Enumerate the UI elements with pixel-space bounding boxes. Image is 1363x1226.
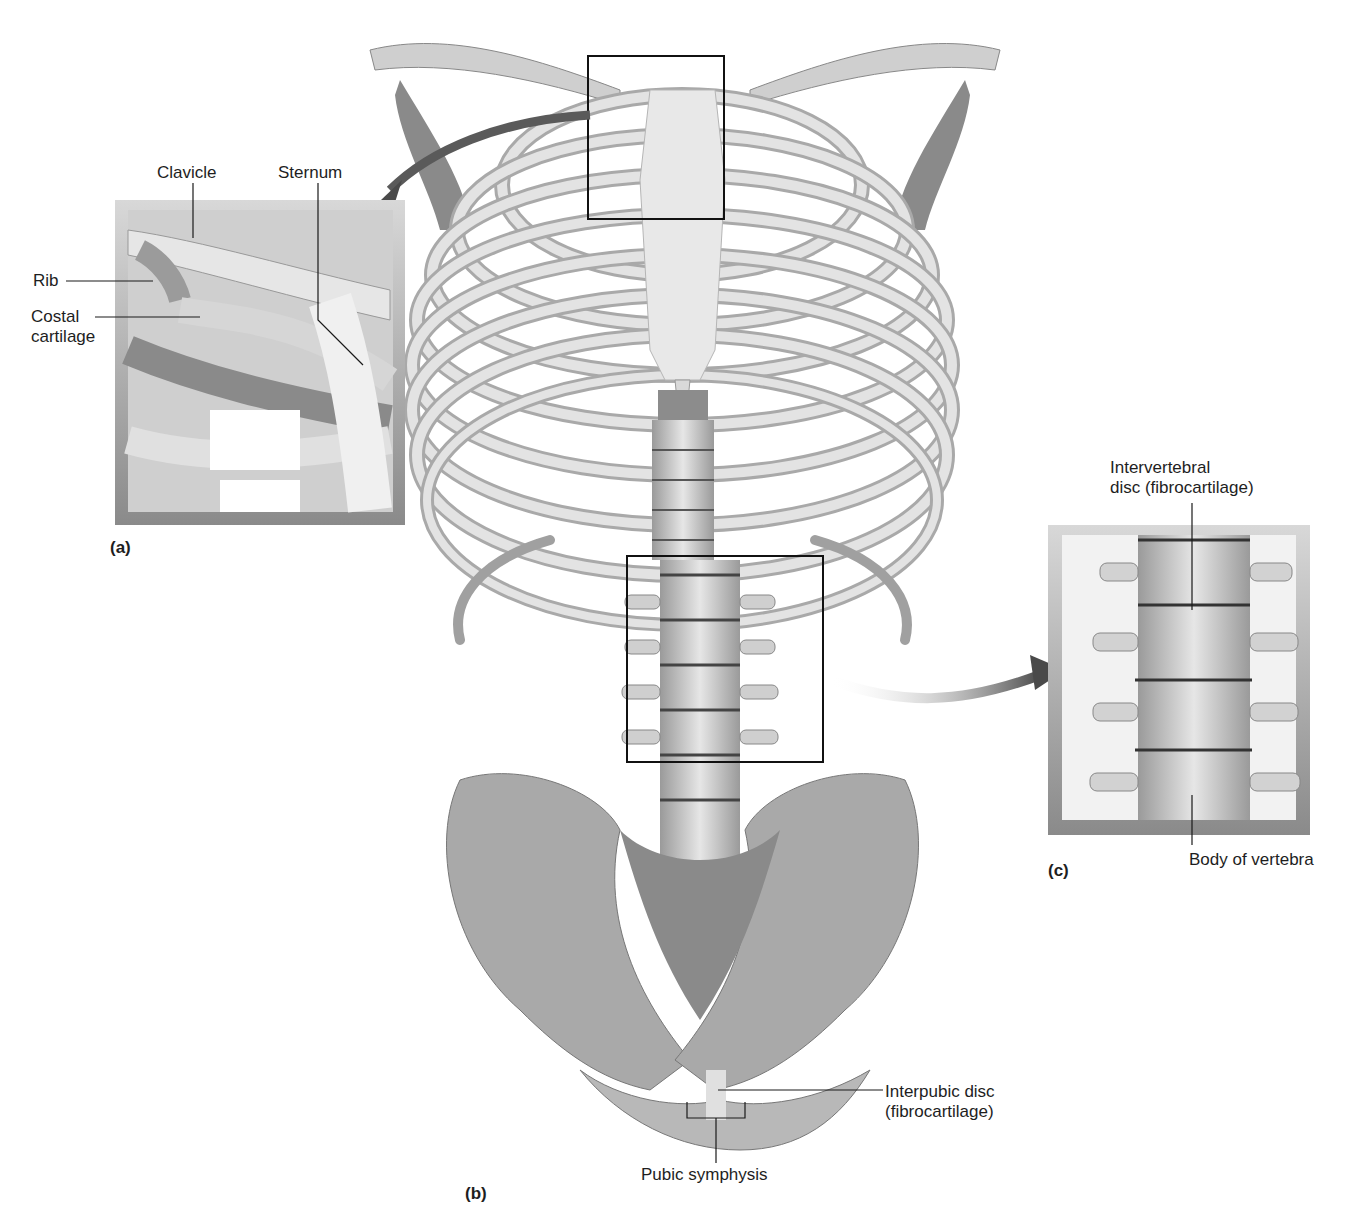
- panel-tag-a: (a): [110, 538, 131, 558]
- panel-tag-c: (c): [1048, 861, 1069, 881]
- panel-tag-b: (b): [465, 1184, 487, 1204]
- sternum: [640, 90, 725, 400]
- panel-a-inset: [115, 200, 405, 525]
- label-body-of-vertebra: Body of vertebra: [1189, 850, 1314, 870]
- label-clavicle: Clavicle: [157, 163, 217, 183]
- skeleton-illustration: [0, 0, 1363, 1226]
- label-pubic-symphysis: Pubic symphysis: [641, 1165, 768, 1185]
- label-interpubic-disc: Interpubic disc (fibrocartilage): [885, 1082, 995, 1122]
- label-costal-cartilage: Costal cartilage: [31, 307, 95, 347]
- arrow-to-panel-c: [830, 675, 1040, 698]
- label-intervertebral-disc: Intervertebral disc (fibrocartilage): [1110, 458, 1254, 498]
- label-sternum: Sternum: [278, 163, 342, 183]
- panel-c-inset: [1048, 525, 1310, 835]
- label-rib: Rib: [33, 271, 59, 291]
